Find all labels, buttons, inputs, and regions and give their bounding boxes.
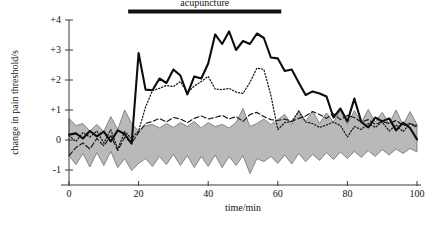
x-tick-label: 40 [203, 188, 213, 199]
y-axis-title: change in pain threshold/s [9, 50, 20, 155]
acupuncture-period-bar [128, 10, 281, 14]
axes-layer: -10+1+2+3+4 020406080100 [50, 14, 424, 199]
y-tick-label: 0 [56, 134, 61, 145]
chart-canvas: -10+1+2+3+4 020406080100 acupuncture tim… [0, 0, 438, 233]
x-axis-title: time/min [225, 202, 261, 213]
y-tick-label: +4 [50, 14, 61, 25]
x-tick-label: 60 [273, 188, 283, 199]
x-tick-label: 100 [410, 188, 425, 199]
annotation-layer: acupuncture [128, 0, 281, 14]
y-tick-label: +1 [50, 104, 61, 115]
x-tick-label: 20 [134, 188, 144, 199]
x-tick-label: 80 [342, 188, 352, 199]
acupuncture-pain-threshold-chart: -10+1+2+3+4 020406080100 acupuncture tim… [0, 0, 438, 233]
x-axis-ticks: 020406080100 [67, 181, 425, 199]
y-tick-label: +3 [50, 44, 61, 55]
y-tick-label: -1 [53, 164, 61, 175]
x-tick-label: 0 [67, 188, 72, 199]
y-tick-label: +2 [50, 74, 61, 85]
acupuncture-period-label: acupuncture [180, 0, 229, 8]
